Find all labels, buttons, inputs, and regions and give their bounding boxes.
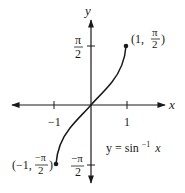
equation-exponent: −1 xyxy=(142,140,151,149)
top-point-label-prefix: (1, xyxy=(131,32,144,46)
x-tick-label-neg-one: −1 xyxy=(48,115,61,129)
top-point-label-suffix: ) xyxy=(161,32,165,46)
x-axis-label: x xyxy=(168,97,175,112)
y-tick-label-pi-half-num: π xyxy=(75,33,81,47)
arcsin-graph: y x −1 1 π 2 −π 2 (1, π 2 ) (−1, −π 2 ) … xyxy=(0,0,185,193)
bottom-point-label-num: −π xyxy=(35,152,46,163)
bottom-point-label-suffix: ) xyxy=(49,158,53,172)
top-point-label-num: π xyxy=(152,26,158,38)
top-point-label-den: 2 xyxy=(152,38,158,50)
y-tick-label-neg-pi-half-den: 2 xyxy=(75,165,81,179)
equation-label: y = sin −1 x xyxy=(106,136,161,155)
equation-variable: x xyxy=(154,141,161,155)
y-axis-label: y xyxy=(83,3,91,18)
x-tick-label-one: 1 xyxy=(124,115,130,129)
bottom-point-label-den: 2 xyxy=(38,164,44,176)
endpoint-top xyxy=(124,44,129,49)
bottom-point-label-prefix: (−1, xyxy=(12,158,32,172)
equation-main: y = sin xyxy=(106,141,139,155)
endpoint-bottom xyxy=(54,162,59,167)
y-tick-label-pi-half-den: 2 xyxy=(75,47,81,61)
y-tick-label-neg-pi-half-num: −π xyxy=(71,152,83,164)
